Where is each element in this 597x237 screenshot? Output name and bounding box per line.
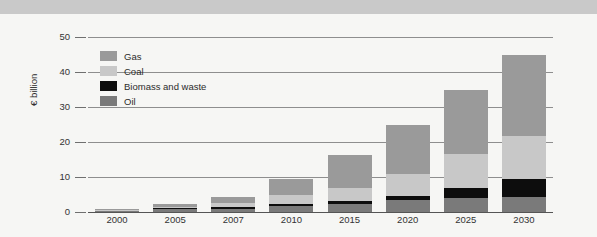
legend-label-gas: Gas bbox=[124, 51, 141, 62]
bar-2000[interactable] bbox=[95, 210, 139, 212]
y-tick-label-10: 10 bbox=[30, 171, 70, 182]
bar-2020[interactable] bbox=[386, 125, 430, 213]
legend-item-oil[interactable]: Oil bbox=[100, 95, 206, 107]
bar-segment-biomass-and-waste-2005 bbox=[153, 208, 197, 209]
legend-label-coal: Coal bbox=[124, 66, 144, 77]
chart-legend: GasCoalBiomass and wasteOil bbox=[100, 50, 206, 107]
bar-segment-gas-2010 bbox=[269, 179, 313, 195]
legend-item-gas[interactable]: Gas bbox=[100, 50, 206, 62]
gridline-0 bbox=[88, 212, 553, 213]
x-tick-label-2005: 2005 bbox=[147, 214, 203, 225]
bar-segment-coal-2025 bbox=[444, 154, 488, 188]
source-note: Source: EWEA (2008a) bbox=[6, 236, 87, 237]
figure-container: € billion 01020304050 200020052007201020… bbox=[0, 14, 597, 237]
legend-swatch-gas bbox=[100, 51, 117, 61]
bar-segment-coal-2007 bbox=[211, 203, 255, 207]
x-tick-label-2030: 2030 bbox=[496, 214, 552, 225]
y-tick-mark-50 bbox=[75, 37, 86, 38]
y-tick-label-0: 0 bbox=[30, 206, 70, 217]
x-tick-label-2025: 2025 bbox=[438, 214, 494, 225]
y-tick-label-30: 30 bbox=[30, 101, 70, 112]
x-axis-tick-labels: 20002005200720102015202020252030 bbox=[88, 214, 553, 230]
bar-2030[interactable] bbox=[502, 55, 546, 213]
bar-segment-oil-2000 bbox=[95, 211, 139, 212]
bar-segment-oil-2025 bbox=[444, 198, 488, 212]
bar-segment-oil-2020 bbox=[386, 200, 430, 212]
bar-segment-biomass-and-waste-2025 bbox=[444, 188, 488, 199]
x-tick-label-2007: 2007 bbox=[205, 214, 261, 225]
x-tick-label-2020: 2020 bbox=[380, 214, 436, 225]
bar-segment-oil-2005 bbox=[153, 209, 197, 212]
y-tick-label-20: 20 bbox=[30, 136, 70, 147]
bar-segment-biomass-and-waste-2007 bbox=[211, 207, 255, 208]
bar-segment-gas-2025 bbox=[444, 90, 488, 154]
bar-segment-gas-2007 bbox=[211, 197, 255, 203]
legend-swatch-biomass bbox=[100, 81, 117, 91]
bar-segment-coal-2010 bbox=[269, 195, 313, 204]
bar-segment-biomass-and-waste-2020 bbox=[386, 196, 430, 200]
bar-segment-coal-2005 bbox=[153, 207, 197, 208]
bar-segment-oil-2030 bbox=[502, 197, 546, 212]
bar-2025[interactable] bbox=[444, 90, 488, 213]
bar-segment-oil-2010 bbox=[269, 206, 313, 212]
bar-segment-coal-2015 bbox=[328, 188, 372, 202]
bar-segment-biomass-and-waste-2030 bbox=[502, 179, 546, 196]
y-tick-mark-40 bbox=[75, 72, 86, 73]
bar-segment-oil-2007 bbox=[211, 209, 255, 213]
bar-segment-oil-2015 bbox=[328, 204, 372, 212]
x-tick-label-2010: 2010 bbox=[263, 214, 319, 225]
bar-segment-biomass-and-waste-2010 bbox=[269, 204, 313, 205]
page-top-banner bbox=[0, 0, 597, 14]
y-tick-mark-0 bbox=[75, 212, 86, 213]
y-tick-mark-20 bbox=[75, 142, 86, 143]
legend-label-oil: Oil bbox=[124, 96, 136, 107]
legend-item-coal[interactable]: Coal bbox=[100, 65, 206, 77]
y-tick-mark-30 bbox=[75, 107, 86, 108]
bar-segment-gas-2000 bbox=[95, 209, 139, 210]
y-tick-label-40: 40 bbox=[30, 66, 70, 77]
bar-2010[interactable] bbox=[269, 179, 313, 212]
y-tick-label-50: 50 bbox=[30, 31, 70, 42]
bar-segment-coal-2020 bbox=[386, 174, 430, 196]
legend-label-biomass: Biomass and waste bbox=[124, 81, 206, 92]
x-tick-label-2000: 2000 bbox=[89, 214, 145, 225]
y-tick-mark-10 bbox=[75, 177, 86, 178]
bar-2015[interactable] bbox=[328, 155, 372, 212]
legend-item-biomass[interactable]: Biomass and waste bbox=[100, 80, 206, 92]
bar-segment-coal-2030 bbox=[502, 136, 546, 180]
bar-2007[interactable] bbox=[211, 197, 255, 212]
legend-swatch-coal bbox=[100, 66, 117, 76]
legend-swatch-oil bbox=[100, 96, 117, 106]
x-tick-label-2015: 2015 bbox=[322, 214, 378, 225]
bar-segment-biomass-and-waste-2015 bbox=[328, 201, 372, 203]
bar-segment-gas-2020 bbox=[386, 125, 430, 175]
bar-segment-gas-2030 bbox=[502, 55, 546, 136]
bar-2005[interactable] bbox=[153, 204, 197, 212]
bar-segment-gas-2005 bbox=[153, 204, 197, 207]
bar-segment-gas-2015 bbox=[328, 155, 372, 188]
